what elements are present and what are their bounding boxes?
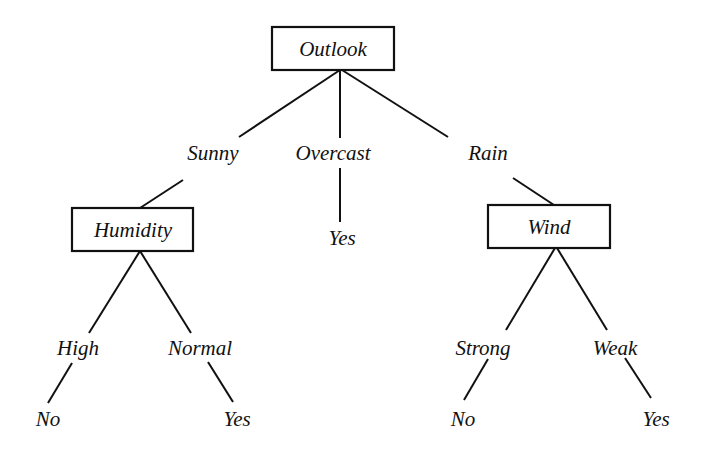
branch-label-normal: Normal bbox=[167, 336, 232, 360]
branch-label-overcast: Overcast bbox=[295, 141, 371, 165]
node-wind-label: Wind bbox=[527, 215, 571, 239]
branch-label-weak: Weak bbox=[593, 336, 638, 360]
node-outlook-label: Outlook bbox=[299, 37, 367, 61]
edge-strong-no bbox=[464, 359, 488, 400]
leaf-overcast-yes: Yes bbox=[328, 226, 355, 250]
branch-label-sunny: Sunny bbox=[187, 141, 239, 165]
edge-humidity-normal bbox=[140, 251, 191, 333]
edge-wind-weak bbox=[557, 248, 607, 330]
node-humidity-label: Humidity bbox=[93, 218, 173, 242]
leaf-strong-no: No bbox=[450, 407, 476, 431]
edge-high-no bbox=[48, 363, 72, 403]
edge-sunny-humidity bbox=[140, 180, 183, 208]
branch-label-high: High bbox=[56, 336, 99, 360]
edge-humidity-high bbox=[89, 251, 140, 333]
edge-rain-wind bbox=[513, 178, 554, 205]
branch-label-rain: Rain bbox=[467, 141, 508, 165]
node-wind: Wind bbox=[488, 205, 610, 248]
node-humidity: Humidity bbox=[72, 208, 193, 251]
node-outlook: Outlook bbox=[272, 27, 394, 70]
leaf-high-no: No bbox=[35, 407, 61, 431]
branch-label-strong: Strong bbox=[455, 336, 510, 360]
edge-outlook-sunny bbox=[239, 70, 340, 137]
edge-weak-yes bbox=[625, 358, 651, 398]
edge-outlook-rain bbox=[342, 70, 448, 137]
edge-normal-yes bbox=[208, 362, 233, 402]
edge-wind-strong bbox=[506, 248, 555, 330]
leaf-weak-yes: Yes bbox=[642, 407, 669, 431]
leaf-normal-yes: Yes bbox=[223, 407, 250, 431]
decision-tree-diagram: Outlook Sunny Overcast Rain Humidity Yes… bbox=[0, 0, 703, 451]
